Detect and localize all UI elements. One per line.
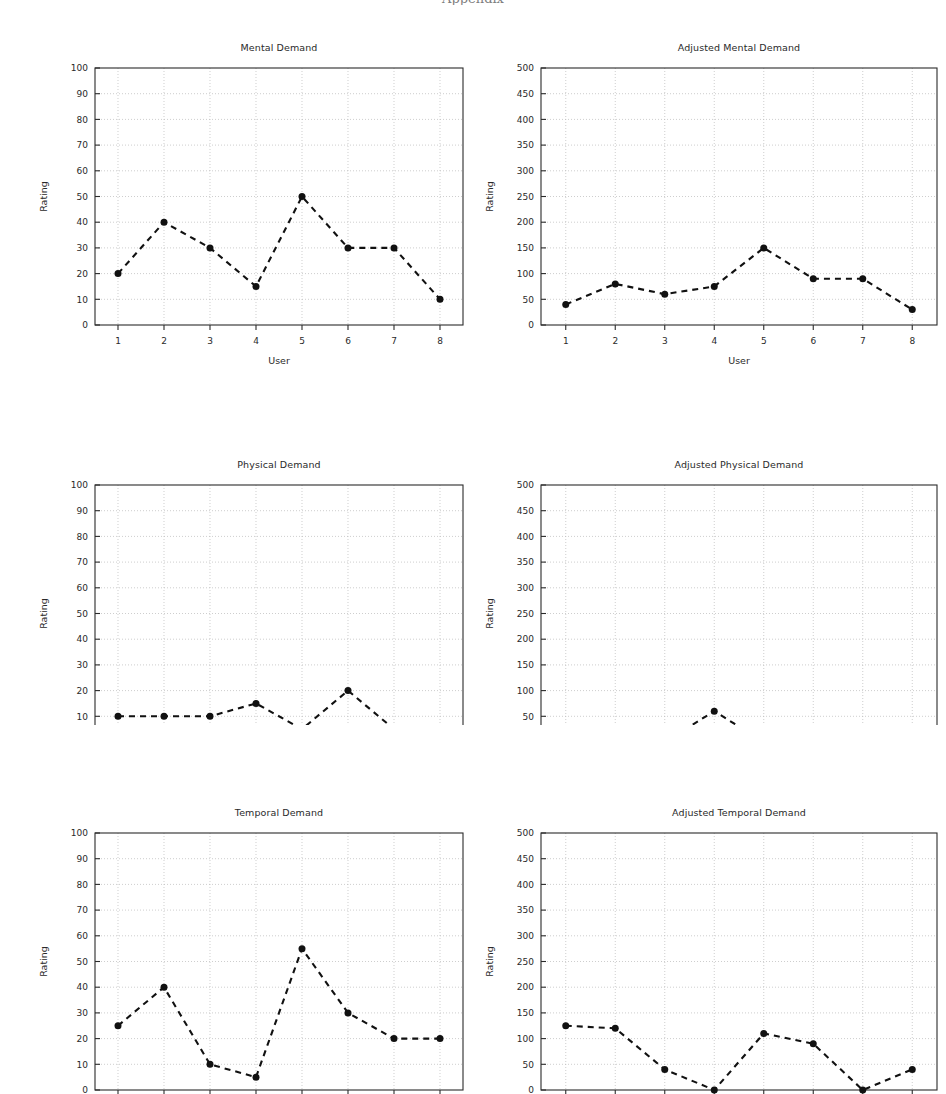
data-point xyxy=(207,1061,214,1068)
plot-frame xyxy=(541,485,937,725)
y-tick-label: 500 xyxy=(517,63,534,73)
y-tick-label: 0 xyxy=(528,1085,534,1094)
plot-frame xyxy=(95,485,463,725)
data-point xyxy=(810,275,817,282)
data-point xyxy=(115,713,122,720)
chart-title: Physical Demand xyxy=(237,459,320,470)
data-point xyxy=(253,1074,260,1081)
data-point xyxy=(253,283,260,290)
y-tick-label: 500 xyxy=(517,480,534,490)
y-tick-label: 90 xyxy=(77,506,89,516)
data-point xyxy=(345,1009,352,1016)
y-tick-label: 40 xyxy=(77,634,89,644)
data-point xyxy=(161,713,168,720)
y-tick-label: 100 xyxy=(71,480,88,490)
data-point xyxy=(115,1022,122,1029)
chart-adjusted-temporal-demand: Adjusted Temporal Demand0501001502002503… xyxy=(473,725,946,1094)
data-point xyxy=(562,1022,569,1029)
y-tick-label: 10 xyxy=(77,295,89,305)
data-point xyxy=(115,270,122,277)
y-axis: 050100150200250300350400450500 xyxy=(517,480,546,725)
data-point xyxy=(345,687,352,694)
y-tick-label: 400 xyxy=(517,532,534,542)
data-point xyxy=(760,244,767,251)
series-line xyxy=(566,711,913,725)
data-point xyxy=(345,244,352,251)
y-tick-label: 250 xyxy=(517,609,534,619)
y-axis: 0102030405060708090100 xyxy=(71,480,100,725)
y-tick-label: 30 xyxy=(77,1008,89,1018)
x-axis-label: User xyxy=(728,355,750,366)
y-axis-label: Rating xyxy=(484,946,495,977)
data-point xyxy=(859,275,866,282)
data-point xyxy=(909,306,916,313)
data-point xyxy=(437,296,444,303)
chart-adjusted-physical-demand: Adjusted Physical Demand0501001502002503… xyxy=(473,370,946,725)
data-point xyxy=(661,291,668,298)
x-tick-label: 8 xyxy=(909,336,915,346)
y-tick-label: 50 xyxy=(523,712,535,722)
x-tick-label: 5 xyxy=(299,336,305,346)
x-tick-label: 7 xyxy=(860,336,866,346)
y-tick-label: 250 xyxy=(517,957,534,967)
data-point xyxy=(391,1035,398,1042)
y-tick-label: 50 xyxy=(77,609,89,619)
y-tick-label: 40 xyxy=(77,982,89,992)
gridlines xyxy=(95,485,463,725)
data-point xyxy=(207,244,214,251)
y-tick-label: 300 xyxy=(517,583,534,593)
x-axis: 12345678 xyxy=(115,325,443,346)
y-tick-label: 150 xyxy=(517,1008,534,1018)
data-point xyxy=(909,1066,916,1073)
y-tick-label: 70 xyxy=(77,905,89,915)
y-tick-label: 10 xyxy=(77,712,89,722)
y-tick-label: 60 xyxy=(77,583,89,593)
data-point xyxy=(207,713,214,720)
y-tick-label: 30 xyxy=(77,660,89,670)
y-axis: 050100150200250300350400450500 xyxy=(517,63,546,330)
x-tick-label: 2 xyxy=(161,336,167,346)
data-point xyxy=(760,1030,767,1037)
data-point xyxy=(612,1025,619,1032)
y-axis-label: Rating xyxy=(484,598,495,629)
y-tick-label: 50 xyxy=(523,295,535,305)
chart-cell-temporal-demand: Temporal Demand0102030405060708090100123… xyxy=(0,725,473,1094)
gridlines xyxy=(95,68,463,325)
chart-mental-demand: Mental Demand010203040506070809010012345… xyxy=(0,0,473,370)
y-tick-label: 100 xyxy=(517,269,534,279)
chart-cell-adjusted-temporal-demand: Adjusted Temporal Demand0501001502002503… xyxy=(473,725,946,1094)
x-axis-label: User xyxy=(268,355,290,366)
y-tick-label: 450 xyxy=(517,89,534,99)
x-tick-label: 7 xyxy=(391,336,397,346)
x-tick-label: 1 xyxy=(115,336,121,346)
y-tick-label: 400 xyxy=(517,880,534,890)
y-tick-label: 500 xyxy=(517,828,534,838)
gridlines xyxy=(541,485,937,725)
data-point xyxy=(299,945,306,952)
series-line xyxy=(118,691,440,725)
y-tick-label: 400 xyxy=(517,115,534,125)
y-tick-label: 450 xyxy=(517,506,534,516)
data-point xyxy=(711,1087,718,1094)
chart-cell-physical-demand: Physical Demand0102030405060708090100123… xyxy=(0,370,473,725)
chart-title: Adjusted Temporal Demand xyxy=(672,807,806,818)
x-tick-label: 3 xyxy=(207,336,213,346)
y-tick-label: 250 xyxy=(517,192,534,202)
y-tick-label: 150 xyxy=(517,243,534,253)
y-tick-label: 450 xyxy=(517,854,534,864)
x-tick-label: 8 xyxy=(437,336,443,346)
y-tick-label: 350 xyxy=(517,905,534,915)
y-tick-label: 80 xyxy=(77,115,89,125)
y-tick-label: 50 xyxy=(77,192,89,202)
x-tick-label: 6 xyxy=(810,336,816,346)
chart-cell-adjusted-physical-demand: Adjusted Physical Demand0501001502002503… xyxy=(473,370,946,725)
x-tick-label: 1 xyxy=(563,336,569,346)
data-point xyxy=(299,193,306,200)
series-line xyxy=(566,1026,913,1090)
x-tick-label: 2 xyxy=(612,336,618,346)
y-tick-label: 20 xyxy=(77,269,89,279)
series-line xyxy=(118,949,440,1078)
data-point xyxy=(161,984,168,991)
data-point xyxy=(711,708,718,715)
data-point xyxy=(810,1040,817,1047)
